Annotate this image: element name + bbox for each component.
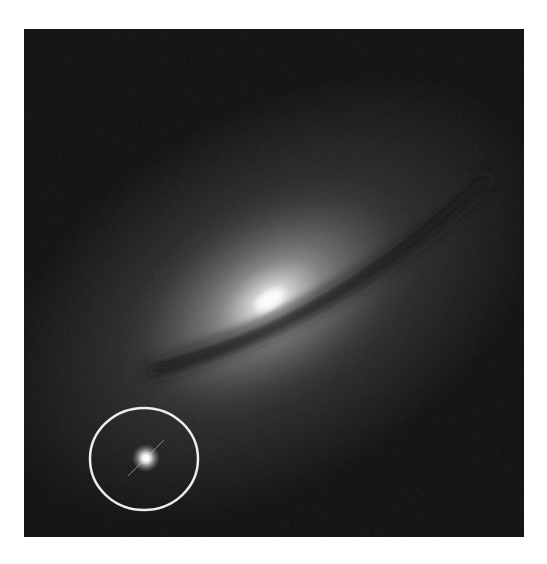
galaxy-illustration xyxy=(24,29,524,537)
image-grain xyxy=(24,29,524,537)
galaxy-photo xyxy=(24,29,524,537)
